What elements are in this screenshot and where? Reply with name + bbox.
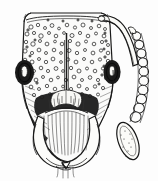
antennal-club: [112, 119, 143, 162]
ant-head-illustration: Ant head in full-face (frontal) view wit…: [0, 0, 158, 181]
compound-eye-left: [15, 60, 34, 85]
compound-eye-right: [103, 60, 120, 84]
illustration-canvas: [0, 0, 158, 181]
scape-base-condyle: [98, 16, 104, 21]
eye-highlight-right: [109, 66, 114, 76]
